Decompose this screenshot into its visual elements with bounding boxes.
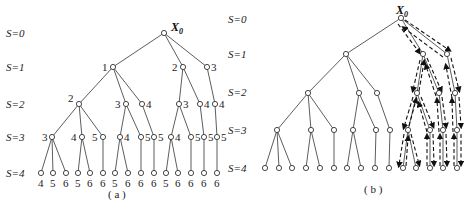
svg-text:5: 5 [75,177,81,189]
caption-b: ( b ) [364,183,383,196]
svg-text:6: 6 [175,177,181,189]
tree-node [180,64,185,69]
level-label: S=3 [6,131,25,143]
panel-a: S=0 S=1 S=2 S=3 S=4 [6,20,227,201]
tree-node [110,64,115,69]
level-label: S=0 [6,27,25,39]
svg-text:5: 5 [145,131,151,143]
tree-node [79,134,84,139]
svg-text:5: 5 [50,177,56,189]
root-label: X0 [170,20,183,36]
tree-node [201,134,206,139]
svg-text:5: 5 [158,131,164,143]
tree-node [76,101,81,106]
level-label: S=2 [228,86,247,98]
tree-node [214,134,219,139]
search-tree-figure: S=0 S=1 S=2 S=3 S=4 [0,0,474,207]
tree-node [117,134,122,139]
svg-text:4: 4 [175,131,181,143]
svg-text:6: 6 [87,177,93,189]
svg-text:6: 6 [214,177,220,189]
svg-text:3: 3 [183,98,189,110]
svg-text:6: 6 [188,177,194,189]
svg-text:3: 3 [211,61,217,73]
tree-node [100,134,105,139]
level-labels-a: S=0 S=1 S=2 S=3 S=4 [6,27,25,179]
tree-node [151,134,156,139]
nodes-a [38,30,219,175]
svg-text:5: 5 [221,131,227,143]
tree-node [49,134,54,139]
svg-text:4: 4 [71,131,77,143]
tree-node [197,101,202,106]
tree-node [138,134,143,139]
level-label: S=4 [228,162,247,174]
svg-text:6: 6 [63,177,69,189]
level-label: S=0 [228,13,247,25]
svg-text:6: 6 [100,177,106,189]
level-label: S=4 [6,167,25,179]
svg-text:6: 6 [138,177,144,189]
svg-text:4: 4 [219,98,225,110]
tree-node [212,101,217,106]
root-label-b: X0 [395,3,408,19]
svg-text:4: 4 [204,98,210,110]
svg-text:2: 2 [68,92,74,104]
level-labels-b: S=0 S=1 S=2 S=3 S=4 [228,13,247,174]
svg-text:6: 6 [125,177,131,189]
panel-b: S=0 S=1 S=2 S=3 S=4 [228,3,461,196]
svg-text:4: 4 [146,98,152,110]
level-label: S=3 [228,124,247,136]
svg-text:2: 2 [172,61,178,73]
traversal-arrows [398,20,461,166]
svg-text:4: 4 [38,177,44,189]
svg-text:4: 4 [124,131,130,143]
svg-text:5: 5 [163,177,169,189]
level-label: S=1 [228,48,246,60]
tree-node [123,101,128,106]
svg-text:3: 3 [42,131,48,143]
level-label: S=2 [6,98,25,110]
level-label: S=1 [6,61,24,73]
caption-a: ( a ) [108,188,126,201]
tree-node [176,101,181,106]
tree-node-root [161,30,166,35]
tree-node [204,64,209,69]
tree-node [139,101,144,106]
svg-text:3: 3 [115,98,121,110]
svg-text:6: 6 [151,177,157,189]
tree-node [188,134,193,139]
svg-text:1: 1 [102,61,108,73]
svg-text:5: 5 [195,131,201,143]
svg-text:6: 6 [201,177,207,189]
svg-text:5: 5 [208,131,214,143]
tree-node [168,134,173,139]
svg-text:5: 5 [92,131,98,143]
